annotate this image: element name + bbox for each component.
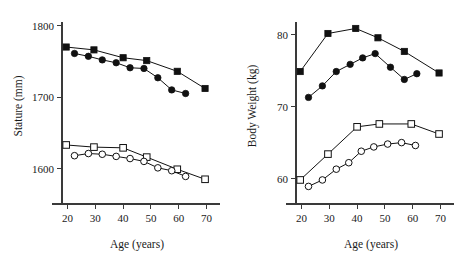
figure-container: 160017001800203040506070Age (years)Statu… — [0, 0, 468, 259]
marker-filled-circle-6 — [155, 75, 161, 81]
marker-open-circle-6 — [384, 141, 391, 148]
marker-filled-circle-2 — [99, 57, 105, 63]
marker-filled-square-0 — [297, 68, 303, 74]
marker-open-circle-4 — [358, 148, 365, 155]
chart-panel-bodyweight: 607080203040506070Age (years)Body Weight… — [234, 0, 468, 259]
marker-filled-circle-5 — [141, 65, 147, 71]
marker-filled-circle-7 — [401, 76, 407, 82]
x-ticklabel-60: 60 — [173, 212, 185, 224]
marker-open-square-2 — [354, 124, 361, 131]
marker-open-circle-5 — [370, 144, 377, 151]
marker-filled-circle-0 — [71, 50, 77, 56]
y-ticklabel-1800: 1800 — [32, 20, 55, 32]
marker-filled-square-4 — [401, 48, 407, 54]
y-ticklabel-60: 60 — [277, 173, 289, 185]
marker-open-square-3 — [376, 121, 383, 128]
x-axis-title: Age (years) — [110, 238, 164, 251]
marker-open-circle-7 — [168, 167, 175, 174]
marker-filled-circle-6 — [387, 64, 393, 70]
marker-filled-square-5 — [436, 70, 442, 76]
marker-open-square-2 — [120, 145, 127, 152]
x-ticklabel-50: 50 — [145, 212, 157, 224]
marker-open-circle-7 — [398, 139, 405, 146]
y-ticklabel-70: 70 — [277, 101, 289, 113]
x-ticklabel-30: 30 — [324, 212, 336, 224]
marker-open-circle-6 — [155, 165, 162, 172]
marker-open-circle-8 — [412, 142, 419, 149]
marker-filled-circle-5 — [372, 50, 378, 56]
marker-filled-circle-3 — [113, 60, 119, 66]
marker-filled-square-4 — [174, 68, 180, 74]
marker-filled-square-1 — [325, 30, 331, 36]
marker-open-circle-3 — [113, 153, 120, 160]
marker-filled-circle-2 — [333, 68, 339, 74]
x-ticklabel-30: 30 — [90, 212, 102, 224]
marker-open-circle-1 — [85, 150, 92, 157]
marker-filled-circle-8 — [182, 90, 188, 96]
x-ticklabel-60: 60 — [407, 212, 419, 224]
y-axis-title: Stature (mm) — [12, 75, 25, 136]
marker-open-square-4 — [408, 121, 415, 128]
series-line-filled-circle — [75, 53, 186, 93]
x-ticklabel-40: 40 — [118, 212, 130, 224]
marker-open-square-0 — [63, 142, 70, 149]
marker-filled-square-1 — [91, 47, 97, 53]
y-ticklabel-1700: 1700 — [32, 91, 55, 103]
marker-open-square-5 — [202, 176, 209, 183]
chart-panel-stature: 160017001800203040506070Age (years)Statu… — [0, 0, 234, 259]
marker-open-circle-0 — [305, 183, 312, 190]
marker-filled-circle-4 — [359, 55, 365, 61]
marker-open-circle-3 — [345, 159, 352, 166]
marker-filled-circle-7 — [169, 87, 175, 93]
y-ticklabel-1600: 1600 — [32, 163, 55, 175]
series-line-open-square — [300, 124, 439, 180]
y-ticklabel-80: 80 — [277, 29, 289, 41]
marker-open-square-1 — [325, 151, 332, 158]
marker-open-circle-2 — [333, 166, 340, 173]
marker-open-circle-8 — [182, 173, 189, 180]
x-ticklabel-40: 40 — [352, 212, 364, 224]
marker-filled-square-5 — [202, 85, 208, 91]
marker-filled-circle-4 — [127, 65, 133, 71]
x-ticklabel-20: 20 — [62, 212, 74, 224]
marker-open-circle-5 — [141, 158, 148, 165]
marker-open-square-1 — [91, 144, 98, 151]
stature-chart-svg: 160017001800203040506070Age (years)Statu… — [0, 0, 234, 259]
marker-filled-circle-3 — [347, 61, 353, 67]
marker-filled-square-2 — [120, 55, 126, 61]
marker-filled-circle-8 — [414, 70, 420, 76]
marker-open-circle-2 — [99, 151, 106, 158]
marker-filled-circle-0 — [305, 94, 311, 100]
marker-filled-square-2 — [353, 25, 359, 31]
marker-filled-circle-1 — [319, 83, 325, 89]
marker-filled-circle-1 — [85, 53, 91, 59]
x-ticklabel-50: 50 — [379, 212, 391, 224]
x-ticklabel-70: 70 — [201, 212, 213, 224]
marker-open-circle-1 — [319, 177, 326, 184]
bodyweight-chart-svg: 607080203040506070Age (years)Body Weight… — [234, 0, 468, 259]
x-ticklabel-20: 20 — [296, 212, 308, 224]
marker-open-square-0 — [297, 177, 304, 184]
series-line-filled-square — [300, 28, 439, 73]
marker-open-circle-4 — [127, 155, 134, 162]
marker-open-square-5 — [436, 131, 443, 138]
marker-filled-square-0 — [63, 44, 69, 50]
y-axis-title: Body Weight (kg) — [246, 65, 259, 148]
marker-open-circle-0 — [71, 152, 78, 159]
marker-filled-square-3 — [375, 35, 381, 41]
x-ticklabel-70: 70 — [435, 212, 447, 224]
marker-filled-square-3 — [144, 58, 150, 64]
x-axis-title: Age (years) — [344, 238, 398, 251]
